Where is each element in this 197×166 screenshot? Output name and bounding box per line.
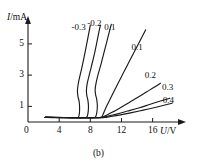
labels-layer: I/mA U/V 0 481216 135 -0.3-0.20.10.10.20… xyxy=(0,0,197,166)
iv-characteristic-figure: I/mA U/V 0 481216 135 -0.3-0.20.10.10.20… xyxy=(0,0,197,166)
x-tick-label: 4 xyxy=(49,125,69,135)
curve-label: -0.2 xyxy=(87,18,101,28)
curve-label: 0.2 xyxy=(145,70,156,80)
curve-label: 0.1 xyxy=(104,22,115,32)
figure-caption: (b) xyxy=(0,148,197,158)
x-tick-label: 8 xyxy=(80,125,100,135)
y-tick-label: 3 xyxy=(6,69,24,79)
curve-label: 0.4 xyxy=(163,95,174,105)
x-tick-label: 16 xyxy=(143,125,163,135)
y-tick-label: 1 xyxy=(6,100,24,110)
origin-label: 0 xyxy=(24,125,29,135)
curve-label: 0.1 xyxy=(132,42,143,52)
x-tick-label: 12 xyxy=(111,125,131,135)
y-tick-label: 5 xyxy=(6,38,24,48)
curve-label: -0.3 xyxy=(72,22,86,32)
y-axis-title: I/mA xyxy=(7,12,27,22)
y-axis-unit: /mA xyxy=(10,12,27,22)
x-axis-unit: /V xyxy=(167,126,177,136)
curve-label: 0.3 xyxy=(162,82,173,92)
